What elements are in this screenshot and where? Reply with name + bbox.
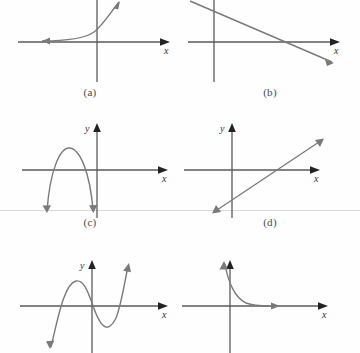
curve-right-arrowhead — [315, 139, 324, 148]
panel-d-plot: y x — [180, 118, 360, 218]
curve-right-arrowhead — [114, 1, 121, 10]
curve-line-negative-slope — [190, 1, 332, 62]
y-axis-label: y — [84, 123, 90, 134]
panel-b-plot: x — [180, 0, 360, 85]
curve-top-arrowhead — [220, 261, 229, 270]
y-axis-arrowhead — [228, 123, 236, 132]
panel-c-plot: y x — [0, 118, 180, 218]
curve-left-arrowhead — [46, 341, 54, 349]
panel-e-plot: y x — [0, 248, 180, 353]
curve-left-arrowhead — [42, 38, 50, 45]
x-axis-label: x — [163, 45, 169, 56]
curve-left-arrowhead — [212, 205, 221, 214]
x-axis-label: x — [321, 309, 327, 320]
panel-a-plot: x — [0, 0, 180, 85]
y-axis-label: y — [219, 123, 225, 134]
curve-right-arrowhead — [271, 303, 280, 310]
x-axis-label: x — [161, 173, 167, 184]
y-axis-arrowhead — [88, 260, 96, 269]
curve-line-positive-slope — [214, 140, 322, 212]
y-axis-arrowhead — [93, 123, 101, 132]
panel-f-plot: x — [180, 248, 360, 353]
curve-left-arrowhead — [43, 205, 51, 213]
panel-b-caption: (b) — [180, 86, 360, 98]
figure-sheet: x (a) x (b) — [0, 0, 360, 353]
panel-c-caption: (c) — [0, 216, 180, 228]
curve-right-arrowhead — [123, 263, 131, 272]
panel-d-caption: (d) — [180, 216, 360, 228]
y-axis-label: y — [79, 260, 85, 271]
x-axis-label: x — [313, 173, 319, 184]
curve-exponential-decay — [225, 264, 278, 306]
x-axis-label: x — [161, 309, 167, 320]
y-axis-arrowhead — [226, 260, 234, 269]
panel-a-caption: (a) — [0, 86, 180, 98]
curve-parabola-down — [47, 148, 93, 211]
x-axis-label: x — [333, 45, 339, 56]
curve-exponential-growth — [42, 2, 119, 41]
curve-right-arrowhead — [89, 205, 97, 213]
